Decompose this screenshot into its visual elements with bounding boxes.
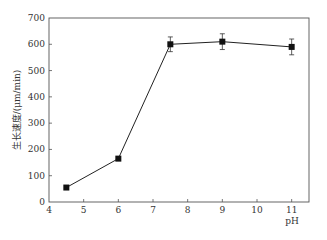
- x-tick-label: 6: [115, 205, 121, 215]
- x-tick-label: 8: [185, 205, 191, 215]
- data-point-marker: [219, 39, 225, 45]
- data-point-marker: [63, 185, 69, 191]
- x-axis-ticks: 4567891011: [46, 199, 297, 215]
- y-tick-label: 200: [28, 144, 45, 154]
- data-point-marker: [167, 41, 173, 47]
- data-point-marker: [289, 44, 295, 50]
- x-tick-label: 9: [219, 205, 225, 215]
- line-chart: 0100200300400500600700 4567891011 生长速度/(…: [0, 0, 327, 240]
- y-tick-label: 100: [28, 171, 45, 181]
- x-tick-label: 7: [150, 205, 156, 215]
- y-tick-label: 500: [28, 66, 45, 76]
- y-tick-label: 700: [28, 13, 45, 23]
- x-tick-label: 10: [251, 205, 263, 215]
- x-axis-title: pH: [285, 216, 299, 226]
- y-axis-ticks: 0100200300400500600700: [28, 13, 52, 207]
- x-tick-label: 4: [46, 205, 52, 215]
- y-tick-label: 400: [28, 92, 45, 102]
- x-tick-label: 5: [81, 205, 87, 215]
- data-series: [63, 34, 294, 191]
- data-point-marker: [115, 156, 121, 162]
- series-line: [66, 42, 291, 188]
- y-axis-title: 生长速度/(μm/min): [11, 70, 22, 151]
- y-tick-label: 300: [28, 118, 45, 128]
- x-tick-label: 11: [286, 205, 297, 215]
- y-tick-label: 600: [28, 39, 45, 49]
- y-tick-label: 0: [39, 197, 45, 207]
